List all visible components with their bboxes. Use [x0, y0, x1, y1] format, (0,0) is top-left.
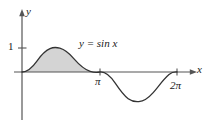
y-axis-label: y — [26, 6, 31, 17]
x-axis-label: x — [197, 64, 202, 75]
curve-equation-label: y = sin x — [79, 38, 117, 49]
y-tick-label-one: 1 — [8, 41, 14, 52]
x-tick-label-pi: π — [95, 76, 101, 87]
plot-canvas — [0, 0, 206, 126]
x-axis-arrow-icon — [190, 69, 197, 75]
x-tick-label-two-pi: 2π — [170, 80, 181, 91]
y-axis-arrow-icon — [19, 9, 25, 16]
sine-curve-figure: y x 1 π 2π y = sin x — [0, 0, 206, 126]
shaded-area-under-arch — [22, 48, 100, 73]
